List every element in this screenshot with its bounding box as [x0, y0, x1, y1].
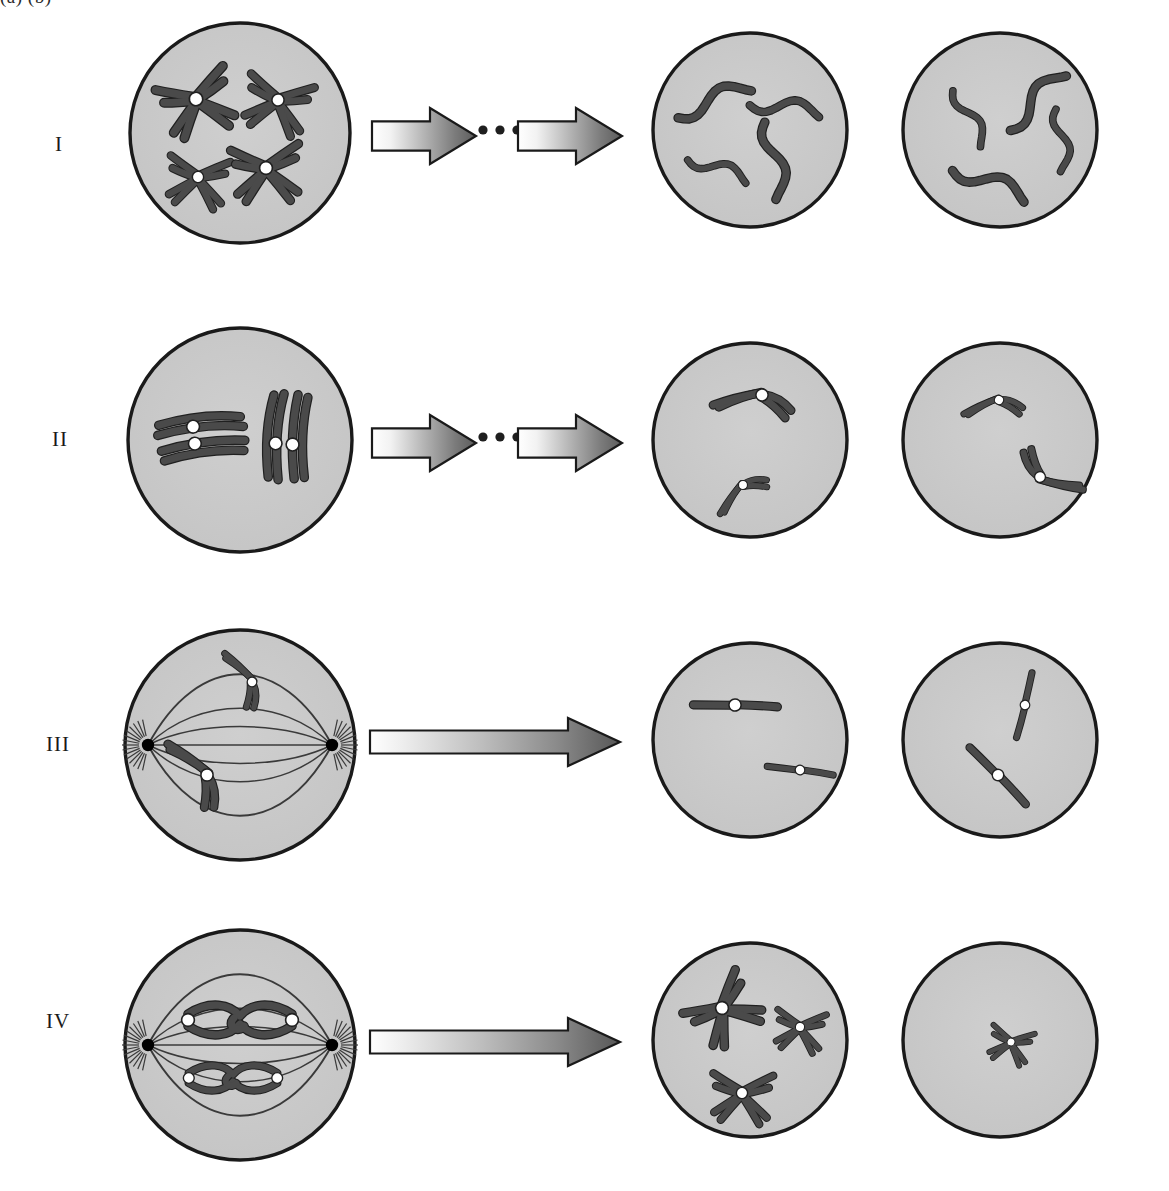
- row-label-i: I: [55, 132, 63, 157]
- chromosome: [164, 154, 230, 211]
- cell-division-figure: (a) (b) I II III IV: [0, 0, 1169, 1191]
- row-iii-cell-3: [903, 643, 1097, 837]
- row-i-arrow-1: [372, 108, 476, 164]
- chromosome: [964, 384, 1023, 437]
- row-iii-cell-2: [653, 643, 847, 837]
- chromosome: [1002, 66, 1069, 134]
- chromosome: [950, 159, 1029, 205]
- spindle-apparatus: [122, 974, 358, 1115]
- chromosome: [767, 748, 833, 794]
- chromosome: [156, 412, 246, 461]
- chromosome: [686, 151, 750, 186]
- row-ii-cell-2: [653, 343, 847, 537]
- row-iv-arrow: [370, 1018, 620, 1066]
- chromosome: [1004, 673, 1044, 738]
- chromosome: [182, 1005, 299, 1035]
- chromosome: [183, 1065, 282, 1090]
- row-ii-cell-3: [903, 343, 1097, 537]
- chromosome: [710, 1072, 773, 1125]
- row-iii-cell-1: [122, 630, 358, 860]
- row-label-iv: IV: [46, 1009, 70, 1034]
- row-iii-arrow: [370, 718, 620, 766]
- row-i-cell-1: [130, 23, 350, 243]
- chromosome: [231, 144, 303, 205]
- row-iv-cell-3: [903, 943, 1097, 1137]
- row-ii-ellipsis: [478, 432, 521, 441]
- chromosome: [682, 970, 770, 1056]
- chromosome: [985, 1024, 1034, 1068]
- diagram-canvas: [0, 0, 1169, 1191]
- chromosome: [719, 479, 768, 514]
- chromosome: [155, 66, 241, 144]
- chromosome: [1023, 437, 1083, 506]
- chromosome: [749, 94, 821, 120]
- row-label-iii: III: [46, 732, 70, 757]
- row-i-ellipsis: [478, 125, 521, 134]
- clipped-caption-text: (a) (b): [0, 0, 420, 8]
- chromosome: [693, 674, 777, 738]
- chromosome: [219, 654, 260, 708]
- row-iv-cell-1: [122, 930, 358, 1160]
- chromosome: [239, 72, 315, 139]
- row-ii-arrow-2: [518, 415, 622, 471]
- row-i-cell-3: [903, 33, 1097, 227]
- row-ii-cell-1: [128, 328, 352, 552]
- chromosome: [168, 742, 215, 808]
- spindle-apparatus: [122, 674, 358, 815]
- row-i-cell-2: [653, 33, 847, 227]
- row-i-arrow-2: [518, 108, 622, 164]
- chromosome: [264, 393, 310, 482]
- chromosome: [772, 1008, 826, 1055]
- chromosome: [949, 86, 991, 148]
- row-label-ii: II: [52, 427, 68, 452]
- row-iv-cell-2: [653, 943, 847, 1137]
- chromosome: [674, 77, 753, 123]
- chromosome: [958, 747, 1037, 804]
- chromosome: [1052, 108, 1073, 172]
- chromosome: [759, 120, 790, 200]
- row-ii-arrow-1: [372, 415, 476, 471]
- chromosome: [713, 370, 792, 445]
